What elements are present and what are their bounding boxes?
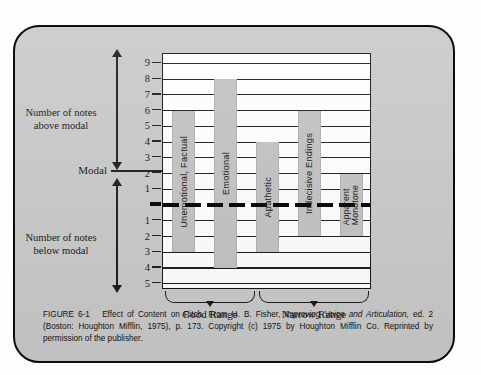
axis-tick-label: 4 xyxy=(145,261,150,272)
y-axis-scale: 98765432112345 xyxy=(127,53,161,289)
axis-tick xyxy=(152,125,161,126)
gridline xyxy=(163,79,370,80)
axis-tick-label: 4 xyxy=(145,136,150,147)
caption-label: FIGURE 6-1 xyxy=(43,310,90,319)
gridline xyxy=(163,94,370,95)
axis-tick-label: 3 xyxy=(145,151,150,162)
axis-tick-label: 7 xyxy=(145,88,150,99)
axis-tick-label: 1 xyxy=(145,183,150,194)
figure-content: Number of notes above modal Number of no… xyxy=(15,27,457,365)
axis-tick xyxy=(152,282,161,283)
plot-area: Unemotional, FactualEmotionalApatheticIn… xyxy=(162,53,371,289)
axis-tick xyxy=(152,62,161,63)
axis-tick-label: 9 xyxy=(145,57,150,68)
bar-label: Unemotional, Factual xyxy=(179,136,189,228)
arrow-line-below xyxy=(116,185,118,285)
bar-label: Indecisive Endings xyxy=(304,133,314,214)
axis-tick xyxy=(152,93,161,94)
figure-plate: Number of notes above modal Number of no… xyxy=(13,25,455,363)
bar: Emotional xyxy=(214,79,237,268)
brace-tip-good-range xyxy=(206,301,214,307)
axis-tick-label: 6 xyxy=(145,104,150,115)
axis-tick xyxy=(152,266,161,267)
gridline xyxy=(163,283,370,284)
bar: Unemotional, Factual xyxy=(172,111,195,253)
bar: Apathetic xyxy=(256,142,279,252)
axis-tick-label: 5 xyxy=(145,277,150,288)
brace-tip-narrow-range xyxy=(310,301,318,307)
arrow-line-above xyxy=(116,56,118,169)
arrow-head-down-below xyxy=(112,285,122,293)
axis-tick xyxy=(152,172,161,173)
modal-line xyxy=(163,203,370,207)
axis-label-below-modal: Number of notes below modal xyxy=(13,232,109,257)
gridline xyxy=(163,63,370,64)
arrow-head-down-above xyxy=(112,162,122,170)
axis-tick-label: 1 xyxy=(145,214,150,225)
bar: Indecisive Endings xyxy=(298,111,321,237)
caption-source-italic: Improving Voice and Articulation, xyxy=(284,310,409,319)
caption-source-pre: From H. B. Fisher, xyxy=(208,310,280,319)
axis-tick xyxy=(152,156,161,157)
bar-label: Emotional xyxy=(221,152,231,195)
axis-tick-label: 2 xyxy=(145,167,150,178)
axis-tick xyxy=(152,251,161,252)
axis-tick xyxy=(152,78,161,79)
bar-label: Apathetic xyxy=(263,177,273,218)
caption-title: Effect of Content on Pitch. xyxy=(102,310,204,319)
axis-tick-label: 2 xyxy=(145,230,150,241)
axis-tick xyxy=(152,140,161,141)
axis-tick-label: 8 xyxy=(145,73,150,84)
axis-tick-label: 5 xyxy=(145,120,150,131)
gridline xyxy=(163,267,370,268)
figure-caption: FIGURE 6-1 Effect of Content on Pitch. F… xyxy=(43,309,433,345)
figure-page: Number of notes above modal Number of no… xyxy=(0,0,481,375)
axis-label-above-modal: Number of notes above modal xyxy=(13,107,109,132)
axis-tick xyxy=(152,188,161,189)
axis-tick xyxy=(152,235,161,236)
axis-tick xyxy=(152,109,161,110)
axis-tick xyxy=(152,219,161,220)
axis-tick-modal xyxy=(150,202,161,205)
axis-label-modal: Modal xyxy=(33,164,107,177)
axis-tick-label: 3 xyxy=(145,246,150,257)
